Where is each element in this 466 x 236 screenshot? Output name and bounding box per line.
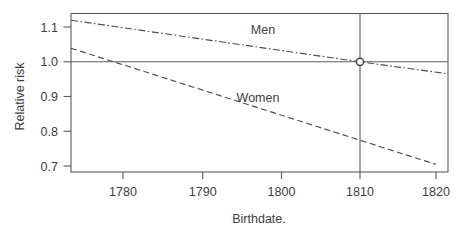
- series-label-women: Women: [237, 91, 280, 105]
- x-axis-tick-labels: 1780 1790 1800 1810 1820: [109, 185, 450, 199]
- relative-risk-line-chart: 1.1 1.0 0.9 0.8 0.7 1780 1790 1800 1810 …: [0, 0, 466, 236]
- crossing-point-marker: [356, 58, 363, 65]
- x-tick-label-1780: 1780: [109, 185, 137, 199]
- y-tick-label-0.8: 0.8: [41, 125, 58, 139]
- y-tick-label-1.1: 1.1: [41, 21, 58, 35]
- y-tick-label-0.9: 0.9: [41, 90, 58, 104]
- y-tick-label-0.7: 0.7: [41, 160, 58, 174]
- y-axis-tick-labels: 1.1 1.0 0.9 0.8 0.7: [41, 21, 58, 174]
- series-label-men: Men: [251, 23, 275, 37]
- series-line-women: [71, 48, 436, 164]
- y-tick-label-1.0: 1.0: [41, 55, 58, 69]
- x-tick-label-1820: 1820: [422, 185, 450, 199]
- x-tick-label-1790: 1790: [189, 185, 217, 199]
- x-axis-ticks: [123, 172, 436, 179]
- y-axis-ticks: [64, 27, 72, 166]
- x-tick-label-1800: 1800: [268, 185, 296, 199]
- y-axis-title: Relative risk: [13, 62, 27, 131]
- chart-figure: 1.1 1.0 0.9 0.8 0.7 1780 1790 1800 1810 …: [0, 0, 466, 236]
- x-axis-title: Birthdate.: [232, 212, 286, 226]
- x-tick-label-1810: 1810: [346, 185, 374, 199]
